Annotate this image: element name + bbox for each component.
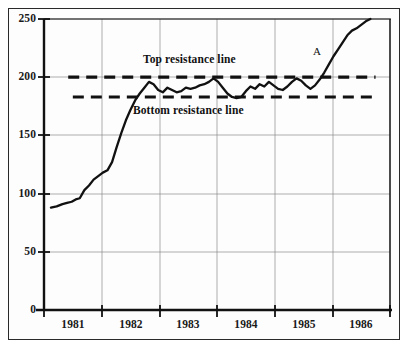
x-axis-label-1986: 1986 [338,318,384,330]
bottom-resistance-line-label: Bottom resistance line [133,104,244,116]
y-axis-label-50: 50 [6,245,36,257]
y-axis-label-150: 150 [6,128,36,140]
x-axis-label-1985: 1985 [281,318,327,330]
x-axis-label-1982: 1982 [108,318,154,330]
x-axis-label-1984: 1984 [223,318,269,330]
x-axis-label-1983: 1983 [165,318,211,330]
y-axis-label-100: 100 [6,187,36,199]
x-axis-label-1981: 1981 [50,318,96,330]
chart-figure: 250 200 150 100 50 0 1981 1982 1983 1984… [0,0,410,350]
top-resistance-line-label: Top resistance line [143,53,236,65]
breakout-point-a-label: A [313,45,321,57]
y-axis-label-200: 200 [6,70,36,82]
y-axis-label-250: 250 [6,12,36,24]
y-axis-label-0: 0 [6,303,36,315]
